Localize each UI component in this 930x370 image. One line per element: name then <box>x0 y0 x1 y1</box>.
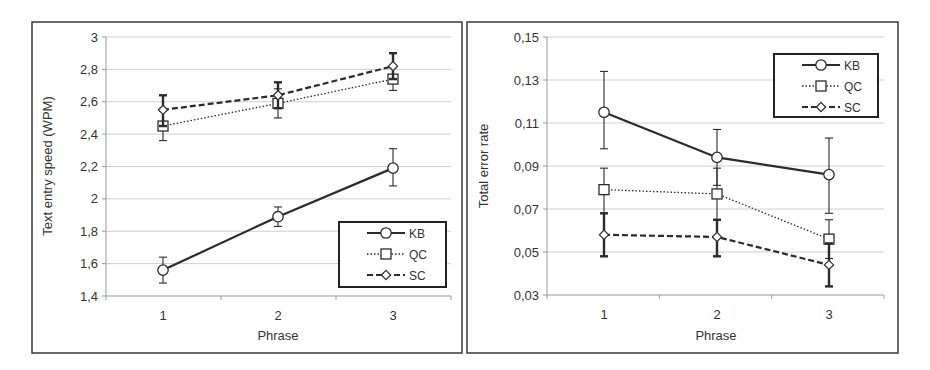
legend: KBQCSC <box>339 222 446 287</box>
chart-text-entry-speed: 1,41,61,822,22,42,62,83 123 Phrase Text … <box>32 22 462 353</box>
legend-label: KB <box>844 59 860 73</box>
y-tick-label: 2,6 <box>80 94 98 109</box>
x-tick-label: 1 <box>600 307 607 322</box>
x-axis-label: Phrase <box>695 328 736 343</box>
data-point-square-marker <box>599 185 609 195</box>
data-point-circle-marker <box>158 265 168 275</box>
legend-label: QC <box>844 80 862 94</box>
y-tick-label: 2,2 <box>80 159 98 174</box>
y-tick-label: 0,15 <box>514 30 539 45</box>
legend-circle-marker <box>381 228 391 238</box>
y-tick-label: 0,05 <box>514 245 539 260</box>
data-point-circle-marker <box>599 107 609 117</box>
y-tick-label: 0,13 <box>514 73 539 88</box>
x-tick-label: 2 <box>713 307 720 322</box>
y-tick-label: 0,03 <box>514 288 539 303</box>
legend-circle-marker <box>816 60 826 70</box>
y-axis-label: Text entry speed (WPM) <box>40 96 55 235</box>
y-tick-label: 3 <box>91 30 98 45</box>
y-tick-label: 2,4 <box>80 127 98 142</box>
y-tick-label: 2,8 <box>80 62 98 77</box>
legend-label: SC <box>409 269 426 283</box>
data-point-circle-marker <box>273 211 283 221</box>
y-axis-label: Total error rate <box>476 124 491 209</box>
y-tick-label: 1,4 <box>80 289 98 304</box>
legend-label: QC <box>409 248 427 262</box>
x-tick-label: 3 <box>389 308 396 323</box>
x-tick-label: 2 <box>274 308 281 323</box>
x-axis-label: Phrase <box>257 328 298 343</box>
legend-label: KB <box>409 227 425 241</box>
charts-canvas: 1,41,61,822,22,42,62,83 123 Phrase Text … <box>0 0 930 370</box>
y-tick-label: 0,11 <box>515 116 539 131</box>
y-tick-label: 1,6 <box>80 256 98 271</box>
y-tick-labels: 1,41,61,822,22,42,62,83 <box>80 30 98 304</box>
x-tick-label: 1 <box>159 308 166 323</box>
y-tick-label: 0,07 <box>514 202 539 217</box>
data-point-circle-marker <box>388 163 398 173</box>
data-point-square-marker <box>712 189 722 199</box>
x-tick-label: 3 <box>825 307 832 322</box>
chart-total-error-rate: 0,030,050,070,090,110,130,15 123 Phrase … <box>467 22 898 353</box>
legend: KBQCSC <box>774 54 878 117</box>
y-tick-label: 1,8 <box>80 224 98 239</box>
legend-square-marker <box>381 249 391 259</box>
data-point-circle-marker <box>712 152 722 162</box>
legend-square-marker <box>816 81 826 91</box>
figure: 1,41,61,822,22,42,62,83 123 Phrase Text … <box>0 0 930 370</box>
legend-label: SC <box>844 101 861 115</box>
data-point-circle-marker <box>824 169 834 179</box>
y-tick-label: 0,09 <box>514 159 539 174</box>
y-tick-label: 2 <box>91 191 98 206</box>
